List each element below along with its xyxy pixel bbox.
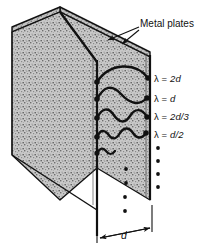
mode-value-3: 2d/3	[170, 111, 189, 122]
standing-wave-plates-figure: Metal plates λ = 2d λ = d λ = 2d/3 λ = d…	[0, 0, 211, 251]
mode-label-1: λ = 2d	[154, 73, 181, 84]
node-dot	[94, 79, 100, 85]
mode-value-2: d	[170, 93, 175, 104]
mode-value-1: 2d	[170, 73, 181, 84]
equals-symbol: =	[162, 93, 168, 104]
lambda-symbol: λ	[154, 129, 159, 140]
equals-symbol: =	[162, 111, 168, 122]
equals-symbol: =	[162, 73, 168, 84]
mode-label-4: λ = d/2	[154, 129, 184, 140]
node-dot	[94, 150, 99, 155]
lambda-symbol: λ	[154, 93, 159, 104]
equals-symbol: =	[162, 129, 168, 140]
separation-label: d	[121, 229, 127, 241]
figure-canvas	[0, 0, 211, 251]
mode-label-3: λ = 2d/3	[154, 111, 189, 122]
mode-value-4: d/2	[170, 129, 184, 140]
right-ellipsis	[156, 146, 160, 189]
node-dot	[94, 115, 100, 121]
mode-label-2: λ = d	[154, 93, 175, 104]
node-dot	[143, 130, 149, 136]
node-dot	[94, 96, 100, 102]
node-dot	[144, 95, 150, 101]
lambda-symbol: λ	[154, 111, 159, 122]
node-dot	[145, 75, 151, 81]
lambda-symbol: λ	[154, 73, 159, 84]
metal-plates-label: Metal plates	[140, 18, 194, 29]
node-dot	[94, 134, 100, 140]
node-dot	[144, 114, 150, 120]
